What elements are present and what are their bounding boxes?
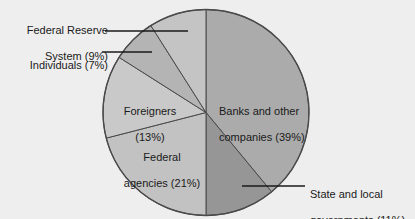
slice-label-line-1: Federal — [117, 151, 207, 164]
slice-label-line-1: State and local — [310, 188, 415, 201]
slice-label-individuals: Individuals (7%) — [2, 46, 108, 85]
slice-label-banks-and-other-companies: Banks and other companies (39%) — [219, 92, 329, 157]
slice-label-line-2: companies (39%) — [219, 131, 329, 144]
slice-label-federal-agencies: Federal agencies (21%) — [117, 138, 207, 203]
slice-label-line-1: Federal Reserve — [4, 24, 108, 37]
slice-label-line-1: Banks and other — [219, 105, 329, 118]
slice-label-line-2: governments (11%) — [310, 214, 415, 219]
slice-label-line-1: Foreigners — [110, 105, 190, 118]
slice-label-state-and-local-governments: State and local governments (11%) — [310, 175, 415, 219]
slice-label-line-1: Individuals (7%) — [2, 59, 108, 72]
slice-label-line-2: agencies (21%) — [117, 177, 207, 190]
pie-chart-figure: Banks and other companies (39%) Foreigne… — [0, 0, 415, 219]
